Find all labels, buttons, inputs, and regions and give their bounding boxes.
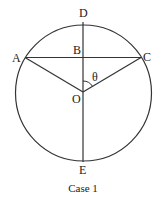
label-O: O [72,92,81,106]
label-E: E [79,163,86,177]
circle-diagram: D A B C O θ E Case 1 [0,0,158,201]
radius-OA [25,58,83,93]
label-A: A [12,51,21,65]
label-D: D [79,6,88,20]
label-theta: θ [92,70,98,84]
label-B: B [73,43,81,57]
caption: Case 1 [68,182,98,194]
label-C: C [143,50,151,64]
